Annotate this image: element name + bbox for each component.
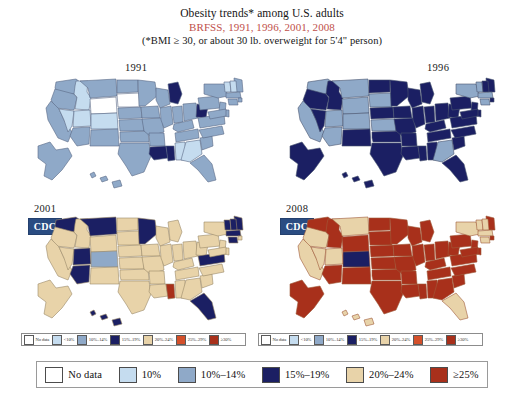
state-wy [342,97,369,114]
state-ms [418,146,427,161]
main-legend-label: 10% [142,369,162,380]
mini-legend-label: 20%–24% [155,337,173,342]
state-ri [238,98,242,102]
state-ar [149,133,165,146]
mini-legend-item: No data [261,335,286,345]
us-map-svg [32,214,260,338]
state-oh [183,241,198,259]
state-nm [90,129,119,146]
state-wy [90,97,117,114]
panel-2001: 2001 CDC [20,200,260,350]
mini-legend-label: 25%–29% [188,337,206,342]
main-legend-swatch [119,367,137,383]
mini-legend-label: 25%–29% [425,337,443,342]
state-wy [342,235,369,252]
us-map-svg [32,76,260,200]
mini-legend-swatch [413,335,423,345]
state-sc [452,136,465,150]
mini-legend-label: No data [273,337,287,342]
map-1991 [32,76,260,200]
state-ri [490,98,494,102]
state-wi [408,226,422,246]
main-legend-label: ≥25% [453,369,478,380]
state-co [91,251,118,267]
state-ri [490,236,494,240]
main-legend-item: 10% [119,367,162,383]
main-legend-item: 15%–19% [262,367,329,383]
state-in [424,106,435,123]
state-ia [141,244,160,256]
mini-legend-swatch [446,335,456,345]
state-nh [482,219,489,230]
mini-legend-item: 15%–19% [110,335,140,345]
state-ut [73,248,91,265]
state-ks [119,257,144,269]
state-sc [200,136,213,150]
state-ms [418,284,427,299]
figure-title: Obesity trends* among U.S. adults [0,6,524,20]
mini-legend-swatch [261,335,271,345]
state-ia [141,106,160,118]
state-ia [393,106,412,118]
state-ak [290,142,324,180]
state-mi [420,82,434,104]
state-ak [38,280,72,318]
state-tx [370,143,403,176]
state-ok [372,131,401,142]
state-ne [118,245,142,257]
figure-title-block: Obesity trends* among U.S. adults BRFSS,… [0,6,524,48]
panel-1991: 1991 [20,58,260,203]
main-legend-item: 20%–24% [346,367,413,383]
mini-legend-swatch [176,335,186,345]
figure-note: (*BMI ≥ 30, or about 30 lb. overweight f… [0,34,524,48]
state-mn [138,218,157,244]
mini-legend-swatch [24,335,34,345]
state-ne [118,107,142,119]
state-oh [435,103,450,121]
state-la [149,284,168,298]
state-ma [478,92,493,98]
panel-year-label: 2008 [286,203,308,214]
mini-legend-label: ≥30% [221,337,232,342]
state-ma [478,230,493,236]
mini-legend-swatch [347,335,357,345]
state-ms [166,284,175,299]
panel-year-label: 2001 [34,203,56,214]
state-sd [117,93,140,107]
panel-year-label: 1996 [427,62,449,73]
state-az [322,127,342,146]
state-ma [226,230,241,236]
state-hi [364,318,374,326]
state-nd [369,80,390,93]
state-ks [371,119,396,131]
state-mn [390,80,409,106]
state-hi [112,318,122,326]
state-pa [198,96,220,110]
state-nm [342,129,371,146]
state-az [322,265,342,284]
state-wi [156,226,170,246]
state-wi [408,88,422,108]
state-oh [435,241,450,259]
state-sd [369,231,392,245]
state-nh [230,219,237,230]
mini-legend-swatch [52,335,62,345]
mini-legend-item: 20%–24% [143,335,173,345]
state-nh [230,81,237,92]
us-map-svg [284,214,512,338]
main-legend-item: No data [45,367,102,383]
mini-legend-label: ≥30% [458,337,469,342]
state-in [424,244,435,261]
state-ak [38,142,72,180]
mini-legend-label: 10%–14% [326,337,344,342]
state-la [401,146,420,160]
main-legend-label: 20%–24% [369,369,413,380]
main-legend: No data10%10%–14%15%–19%20%–24%≥25% [36,361,488,388]
mini-legend-item: 25%–29% [413,335,443,345]
state-co [343,113,370,129]
state-pa [450,96,472,110]
mini-legend-swatch [209,335,219,345]
state-ut [325,248,343,265]
main-legend-swatch [430,367,448,383]
mini-legend-label: 10%–14% [89,337,107,342]
